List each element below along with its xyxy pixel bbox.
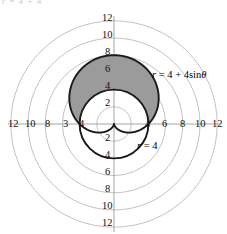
x-tick-label-right-12: 12 bbox=[212, 119, 223, 130]
x-tick-label-right-10: 10 bbox=[195, 119, 206, 130]
x-tick-label-right-4: 4 bbox=[145, 119, 150, 130]
x-tick-label-left-3: 3 bbox=[63, 119, 68, 130]
cardioid-label-rest: = 4 + 4sin bbox=[156, 69, 201, 80]
polar-plot-canvas bbox=[0, 0, 227, 234]
cardioid-equation-label: r = 4 + 4sinθ bbox=[152, 70, 206, 81]
y-tick-label-bottom-10: 10 bbox=[102, 201, 113, 212]
x-tick-label-left-4: 4 bbox=[79, 119, 84, 130]
circle-label-rest: = 4 bbox=[141, 140, 157, 151]
y-tick-label-bottom-4: 4 bbox=[105, 150, 110, 161]
y-tick-label-top-6: 6 bbox=[105, 64, 110, 75]
x-tick-label-left-10: 10 bbox=[25, 119, 36, 130]
y-tick-label-top-10: 10 bbox=[102, 30, 113, 41]
y-tick-label-bottom-2: 2 bbox=[105, 133, 110, 144]
y-tick-label-top-12: 12 bbox=[102, 13, 113, 24]
y-tick-label-bottom-12: 12 bbox=[102, 218, 113, 229]
y-tick-label-top-8: 8 bbox=[105, 47, 110, 58]
y-tick-label-top-2: 2 bbox=[105, 98, 110, 109]
y-tick-label-top-4: 4 bbox=[105, 81, 110, 92]
x-tick-label-left-12: 12 bbox=[8, 119, 19, 130]
x-tick-label-left-8: 8 bbox=[45, 119, 50, 130]
cardioid-label-theta: θ bbox=[201, 69, 206, 80]
circle-equation-label: r = 4 bbox=[137, 141, 158, 152]
y-tick-label-bottom-8: 8 bbox=[105, 184, 110, 195]
x-tick-label-right-6: 6 bbox=[162, 119, 167, 130]
y-tick-label-bottom-6: 6 bbox=[105, 167, 110, 178]
polar-graph-figure: r = 4 + 4 12 10 8 3 4 4 6 8 10 12 12 10 … bbox=[0, 0, 227, 234]
x-tick-label-right-8: 8 bbox=[180, 119, 185, 130]
